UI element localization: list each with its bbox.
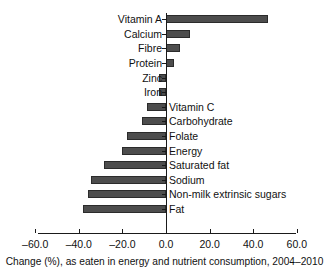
bar-label: Folate [169,131,198,142]
bar [166,30,190,38]
bar-row: Iron [0,85,329,100]
x-axis-tick [297,229,298,233]
zero-axis-line [166,13,167,233]
bar-row: Fibre [0,41,329,56]
bar-label: Sodium [169,174,205,185]
bar-row: Protein [0,56,329,71]
x-axis-tick [79,229,80,233]
bar-label: Energy [169,145,202,156]
bar-row: Energy [0,143,329,158]
bar-label: Vitamin A [118,14,162,25]
x-axis-line [38,233,296,234]
bar-label: Fibre [138,43,162,54]
bar-row: Fat [0,202,329,217]
bar [88,190,166,198]
x-axis-tick [253,229,254,233]
bar [166,59,174,67]
bar-row: Zinc [0,70,329,85]
bar-row: Calcium [0,27,329,42]
chart-figure: Vitamin ACalciumFibreProteinZincIronVita… [0,0,329,275]
bar-label: Iron [144,87,162,98]
bar-row: Carbohydrate [0,114,329,129]
bar-row: Folate [0,129,329,144]
bar-label: Carbohydrate [169,116,233,127]
x-axis-tick-label: 20.0 [199,239,219,250]
bar-label: Saturated fat [169,160,229,171]
x-axis-tick [166,229,167,233]
bar [166,44,180,52]
bar-label: Fat [169,204,184,215]
x-axis-tick-label: 40.0 [243,239,263,250]
x-axis-tick [122,229,123,233]
bar [166,15,268,23]
bar-row: Vitamin A [0,12,329,27]
bar [91,176,166,184]
plot-area: Vitamin ACalciumFibreProteinZincIronVita… [0,0,329,240]
x-axis-tick-label: 0.0 [159,239,174,250]
x-axis-tick-label: 60.0 [287,239,307,250]
bar [104,161,166,169]
bar-label: Calcium [124,28,162,39]
bar [122,147,166,155]
x-axis-tick-label: –20.0 [109,239,135,250]
bar-label: Vitamin C [169,101,214,112]
x-axis-tick [35,229,36,233]
bar-row: Non-milk extrinsic sugars [0,187,329,202]
chart-caption: Change (%), as eaten in energy and nutri… [0,256,329,268]
bar-row: Sodium [0,173,329,188]
bar-label: Zinc [142,72,162,83]
bar-row: Vitamin C [0,100,329,115]
x-axis-tick [210,229,211,233]
bar-label: Non-milk extrinsic sugars [169,189,286,200]
x-axis-tick-label: –60.0 [22,239,48,250]
bar [83,205,166,213]
bar-row: Saturated fat [0,158,329,173]
x-axis-tick-label: –40.0 [66,239,92,250]
bar [127,132,166,140]
bar-label: Protein [129,58,162,69]
